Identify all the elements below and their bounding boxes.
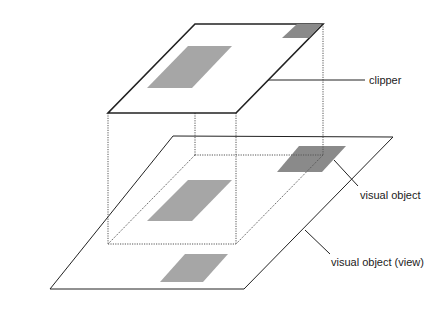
visual-object-label: visual object <box>360 189 421 201</box>
visual-object-view-label: visual object (view) <box>331 256 424 268</box>
visual-object-view-leader-line <box>305 230 330 254</box>
clipper-label: clipper <box>369 74 402 86</box>
diagram-canvas: clipper visual object visual object (vie… <box>0 0 443 309</box>
